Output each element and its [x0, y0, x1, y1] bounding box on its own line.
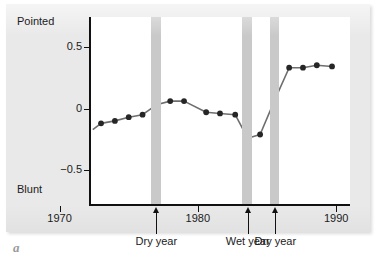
data-point-marker: [181, 98, 187, 104]
annotation-arrow-shaft: [275, 212, 276, 234]
x-tick-label: 1990: [312, 212, 360, 224]
annotation-label: Dry year: [116, 235, 196, 247]
y-axis-bottom-label: Blunt: [17, 183, 42, 195]
data-point-marker: [217, 111, 223, 117]
data-line-chart: [90, 17, 350, 205]
y-axis-top-label: Pointed: [17, 15, 54, 27]
data-point-marker: [112, 118, 118, 124]
data-point-marker: [257, 132, 263, 138]
data-point-marker: [140, 112, 146, 118]
figure-root: 0.50−0.5 197019801990 Pointed Blunt Dry …: [0, 0, 376, 261]
x-tick-label: 1970: [36, 212, 84, 224]
dry-year-band-1985: [270, 17, 280, 205]
y-tick-mark: [84, 170, 90, 171]
data-point-marker: [232, 112, 238, 118]
data-point-marker: [203, 109, 209, 115]
annotation-arrow-shaft: [248, 212, 249, 234]
plot-area: [90, 17, 350, 205]
y-tick-label: −0.5: [36, 164, 82, 175]
annotation-arrow-shaft: [156, 212, 157, 234]
y-tick-label: 0: [36, 103, 82, 114]
series-line: [101, 65, 332, 138]
figure-caption-letter: a: [13, 240, 20, 256]
data-point-marker: [314, 62, 320, 68]
y-tick-label: 0.5: [36, 41, 82, 52]
wet-year-band-1983: [242, 17, 252, 205]
y-tick-mark: [84, 47, 90, 48]
x-tick-label: 1980: [174, 212, 222, 224]
y-axis-line: [89, 17, 91, 205]
data-point-marker: [300, 65, 306, 71]
annotation-label: Dry year: [235, 235, 315, 247]
data-point-marker: [329, 64, 335, 70]
x-axis-line: [89, 204, 350, 206]
dry-year-band-1977: [151, 17, 161, 205]
data-point-marker: [126, 114, 132, 120]
data-point-marker: [286, 65, 292, 71]
data-point-marker: [167, 98, 173, 104]
data-point-marker: [98, 120, 104, 126]
y-tick-mark: [84, 109, 90, 110]
